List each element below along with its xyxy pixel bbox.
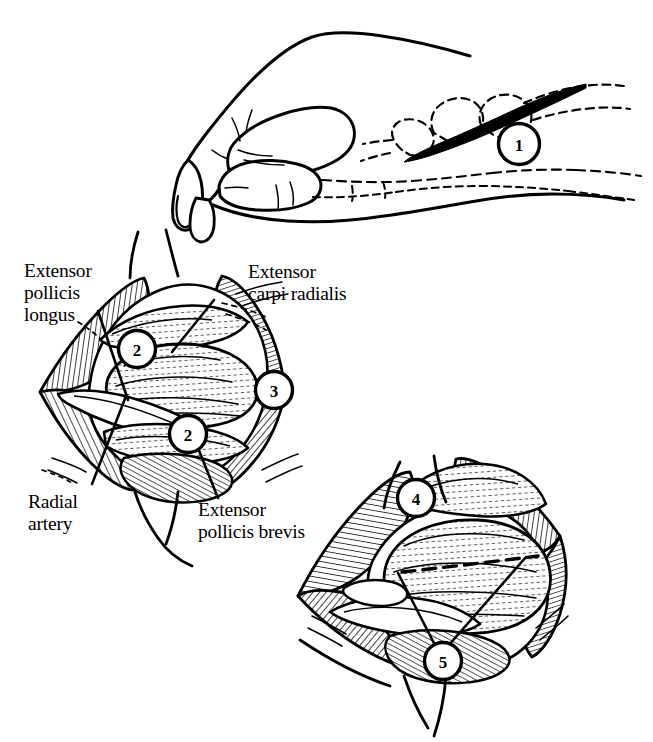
ra-line-2: artery (28, 513, 73, 534)
epl-line-2: pollicis (24, 282, 80, 303)
epb-line-1: Extensor (198, 499, 266, 520)
marker-4-label: 4 (412, 490, 421, 509)
ecr-line-2: carpi radialis (248, 283, 346, 304)
marker-2-lower-label: 2 (184, 426, 193, 445)
marker-4: 4 (398, 480, 435, 517)
marker-5: 5 (425, 643, 462, 680)
epl-line-1: Extensor (24, 260, 92, 281)
illustration-canvas: 1 (0, 0, 653, 742)
little-finger (190, 198, 214, 242)
marker-2-upper: 2 (119, 331, 156, 368)
marker-1: 1 (499, 124, 540, 165)
marker-2-upper-label: 2 (133, 341, 142, 360)
epb-line-2: pollicis brevis (198, 521, 305, 542)
ra-line-1: Radial (28, 491, 78, 512)
marker-3-label: 3 (270, 382, 279, 401)
label-radial-artery: Radial artery (28, 491, 78, 534)
marker-2-lower: 2 (170, 416, 207, 453)
ecr-line-1: Extensor (248, 261, 316, 282)
epl-line-3: longus (24, 304, 75, 325)
anatomical-figure: 1 (0, 0, 653, 742)
marker-5-label: 5 (439, 653, 448, 672)
marker-3: 3 (256, 372, 293, 409)
middle-finger (219, 160, 321, 210)
marker-1-label: 1 (515, 136, 524, 155)
